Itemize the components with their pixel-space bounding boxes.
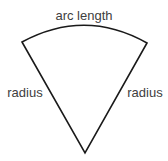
sector-diagram: arc length radius radius: [0, 0, 168, 161]
radius-label-right: radius: [127, 85, 163, 100]
radius-label-left: radius: [7, 85, 43, 100]
arc-length-label: arc length: [55, 8, 112, 23]
